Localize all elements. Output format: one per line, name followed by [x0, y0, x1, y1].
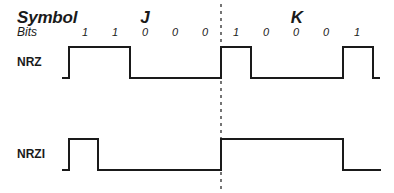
nrzi-waveform	[62, 139, 381, 170]
nrz-waveform	[62, 47, 380, 78]
waveform-canvas	[0, 0, 394, 193]
